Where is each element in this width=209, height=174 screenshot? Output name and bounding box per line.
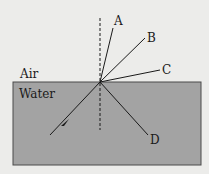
ray-a xyxy=(100,28,113,82)
label-b: B xyxy=(147,31,156,45)
label-air: Air xyxy=(19,67,39,81)
label-a: A xyxy=(113,14,123,28)
ray-c xyxy=(100,70,160,82)
refraction-diagram: A B C D Air Water xyxy=(0,0,209,174)
label-water: Water xyxy=(19,87,55,101)
ray-b xyxy=(100,38,145,82)
label-d: D xyxy=(150,133,160,147)
label-c: C xyxy=(162,63,171,77)
